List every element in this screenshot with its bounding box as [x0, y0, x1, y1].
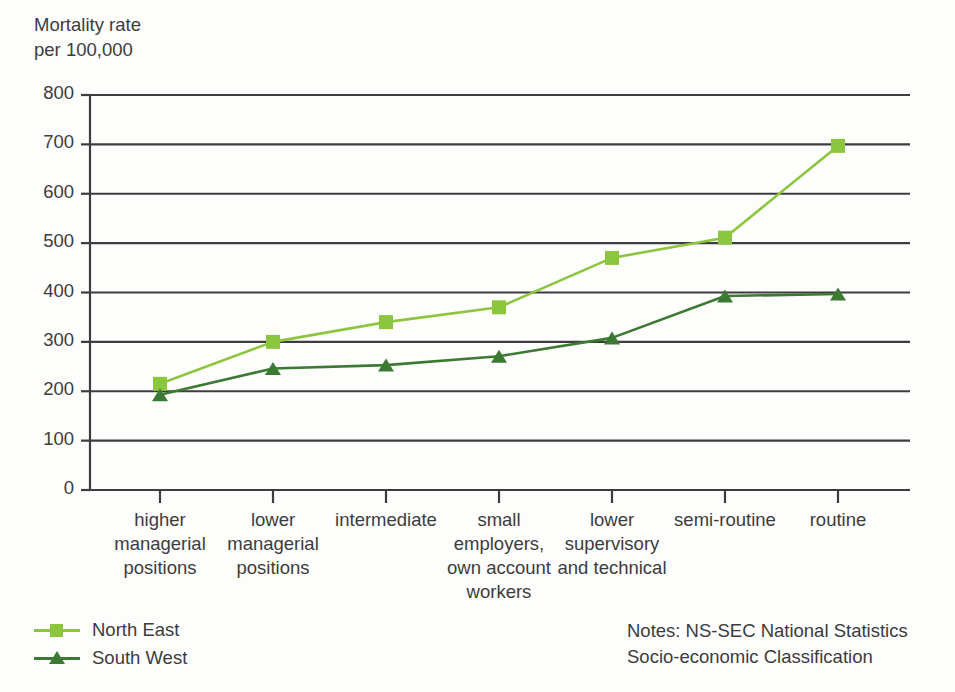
x-tick-label-6: routine [763, 508, 913, 532]
y-tick-label-0: 0 [14, 477, 74, 499]
datapoint-north-east-5 [718, 231, 732, 245]
x-tick-marks-group [160, 490, 838, 503]
chart-legend: North East South West [34, 616, 187, 672]
y-tick-label-600: 600 [14, 181, 74, 203]
y-tick-label-400: 400 [14, 280, 74, 302]
y-tick-label-200: 200 [14, 378, 74, 400]
datapoint-north-east-6 [831, 139, 845, 153]
datapoint-north-east-1 [266, 335, 280, 349]
axes-group [81, 95, 90, 490]
series-line-north-east [160, 146, 838, 384]
datapoint-north-east-2 [379, 315, 393, 329]
legend-marker-triangle-icon [34, 648, 80, 668]
datapoint-north-east-3 [492, 300, 506, 314]
y-tick-label-800: 800 [14, 82, 74, 104]
gridlines-group [90, 95, 910, 490]
chart-notes: Notes: NS-SEC National Statistics Socio-… [627, 618, 908, 670]
legend-item-north-east[interactable]: North East [34, 616, 187, 644]
y-tick-label-300: 300 [14, 329, 74, 351]
legend-item-south-west[interactable]: South West [34, 644, 187, 672]
legend-marker-square-icon [34, 620, 80, 640]
legend-label-south-west: South West [92, 647, 187, 669]
datapoint-north-east-4 [605, 251, 619, 265]
y-tick-label-500: 500 [14, 230, 74, 252]
legend-label-north-east: North East [92, 619, 179, 641]
series-markers-group [152, 139, 846, 401]
y-tick-label-700: 700 [14, 131, 74, 153]
y-tick-label-100: 100 [14, 428, 74, 450]
